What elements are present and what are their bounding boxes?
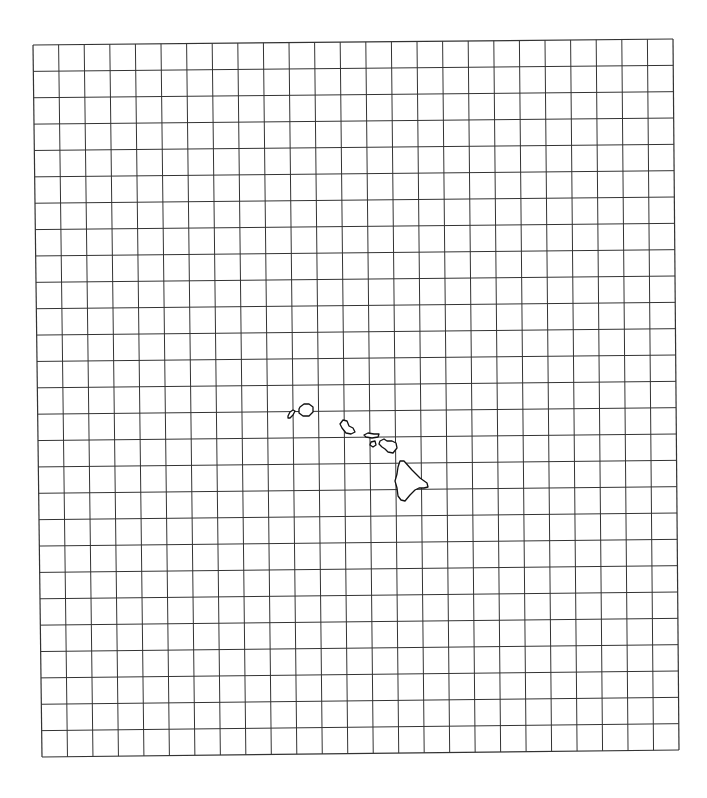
parallel-line [42,750,679,757]
meridian-line [443,41,450,752]
island-hawaii: Hawaii [395,461,428,501]
meridian-line [289,43,297,755]
meridian-line [391,42,398,753]
island-molokai: Molokai [364,433,379,438]
parallel-line [39,487,677,494]
island-lanai: Lanai [370,441,376,447]
parallel-line [37,355,676,361]
meridian-line [212,43,220,755]
parallel-line [34,144,674,150]
parallel-line [39,513,677,520]
parallel-line [36,276,675,282]
parallel-line [33,65,673,71]
parallel-line [34,118,674,124]
meridian-line [110,44,119,756]
parallel-line [34,92,674,98]
meridian-line [571,40,577,751]
parallel-line [36,250,675,256]
parallel-line [38,460,676,467]
parallel-line [36,302,675,308]
graticule-grid [33,39,679,757]
parallel-line [41,645,678,652]
meridian-line [519,40,526,751]
meridian-line [340,42,348,754]
meridian-line [33,45,42,757]
meridian-line [622,39,628,750]
parallel-line [38,434,676,441]
meridian-line [468,41,475,752]
parallel-line [41,671,678,678]
meridian-line [545,40,552,751]
meridian-line [161,44,169,756]
meridian-line [135,44,144,756]
meridian-line [366,42,373,753]
parallel-line [42,724,679,731]
parallel-line [38,408,676,415]
parallel-line [37,381,676,387]
meridian-line [238,43,246,755]
meridian-line [673,39,679,750]
meridian-line [647,39,653,750]
island-kauai: Kauai [299,404,313,416]
parallel-line [33,39,673,45]
parallel-line [41,697,678,704]
meridian-line [596,40,602,751]
parallel-line [40,592,678,599]
parallel-line [35,171,674,177]
meridian-line [84,45,93,757]
meridian-line [59,45,68,757]
map-canvas: NiihauKauaiOahuMolokaiLanaiMauiHawaii [0,0,707,798]
meridian-line [315,42,323,754]
parallel-line [37,329,676,335]
meridian-line [494,41,501,752]
parallel-line [40,618,678,625]
parallel-line [39,539,677,546]
meridian-line [263,43,271,755]
parallel-line [35,223,674,229]
meridian-line [187,44,195,756]
meridian-line [417,41,424,752]
island-oahu: Oahu [340,420,355,434]
islands-layer: NiihauKauaiOahuMolokaiLanaiMauiHawaii [288,404,428,501]
parallel-line [35,197,674,203]
island-maui: Maui [379,439,397,453]
parallel-line [40,566,678,573]
